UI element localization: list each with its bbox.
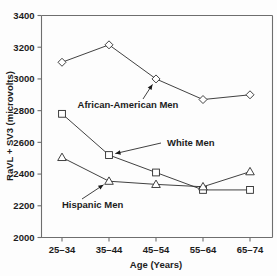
annotation-label: Hispanic Men (62, 199, 123, 210)
x-tick-label: 25–34 (49, 244, 76, 255)
chart-container: 20002200240026002800300032003400 25–3435… (0, 0, 277, 276)
y-tick-label: 2200 (13, 200, 34, 211)
x-tick-label: 65–74 (237, 244, 264, 255)
y-tick-label: 3000 (13, 73, 34, 84)
x-tick-label: 35–44 (96, 244, 123, 255)
data-point-square (59, 110, 66, 117)
y-tick-label: 2000 (13, 232, 34, 243)
y-tick-label: 2400 (13, 168, 34, 179)
y-axis-title: RaVL + SV3 (microvolts) (4, 71, 15, 181)
x-tick-label: 45–54 (143, 244, 170, 255)
annotation-label: White Men (167, 137, 215, 148)
data-point-square (247, 187, 254, 194)
annotation-label: African-American Men (78, 99, 179, 110)
y-tick-label: 2800 (13, 105, 34, 116)
x-axis-title: Age (Years) (130, 259, 182, 270)
line-chart: 20002200240026002800300032003400 25–3435… (0, 0, 277, 276)
x-tick-label: 55–64 (190, 244, 217, 255)
y-tick-label: 2600 (13, 137, 34, 148)
y-tick-label: 3400 (13, 10, 34, 21)
y-tick-label: 3200 (13, 42, 34, 53)
data-point-square (106, 152, 113, 159)
data-point-square (153, 169, 160, 176)
